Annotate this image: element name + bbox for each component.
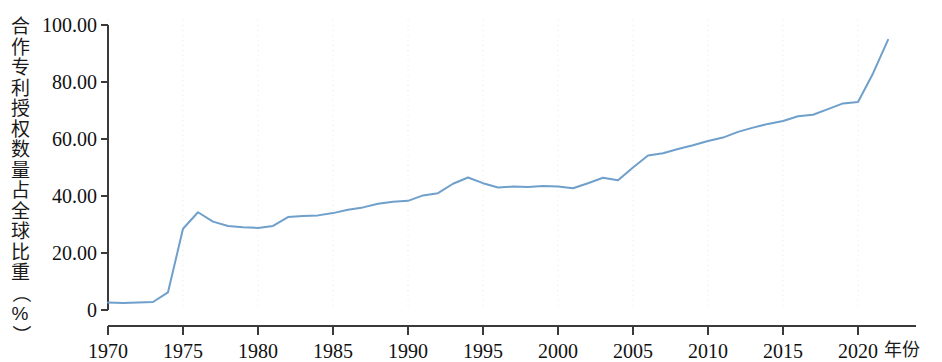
x-tick-group: 1970197519801985199019952000200520102015… bbox=[88, 326, 878, 362]
data-series-group bbox=[108, 40, 888, 303]
y-axis-label-char: （ bbox=[10, 284, 31, 303]
y-axis-label-char: 全 bbox=[11, 201, 30, 222]
y-axis-label-char: 作 bbox=[11, 37, 30, 58]
y-axis-label-char: 球 bbox=[11, 221, 30, 242]
x-tick-label: 2010 bbox=[688, 340, 728, 362]
y-tick-label: 20.00 bbox=[52, 242, 97, 264]
y-axis-label-char: 权 bbox=[11, 119, 30, 140]
y-tick-label: 60.00 bbox=[52, 128, 97, 150]
x-tick-label: 2015 bbox=[763, 340, 803, 362]
y-axis-label-char: 占 bbox=[11, 180, 30, 201]
chart-figure: 020.0040.0060.0080.00100.00 197019751980… bbox=[0, 0, 942, 362]
y-axis-label-char: ） bbox=[10, 325, 31, 344]
y-tick-label: 40.00 bbox=[52, 185, 97, 207]
y-axis-label: 合作专利授权数量占全球比重（%） bbox=[10, 16, 31, 344]
x-tick-label: 1975 bbox=[163, 340, 203, 362]
x-tick-label: 1985 bbox=[313, 340, 353, 362]
y-tick-label: 0 bbox=[87, 299, 97, 321]
y-axis-label-char: 重 bbox=[11, 262, 30, 283]
x-tick-label: 1995 bbox=[463, 340, 503, 362]
x-tick-label: 1980 bbox=[238, 340, 278, 362]
y-tick-label: 80.00 bbox=[52, 71, 97, 93]
y-axis-label-char: 利 bbox=[11, 78, 30, 99]
series-line bbox=[108, 40, 888, 303]
y-tick-group: 020.0040.0060.0080.00100.00 bbox=[42, 14, 108, 321]
x-tick-label: 1990 bbox=[388, 340, 428, 362]
x-tick-label: 1970 bbox=[88, 340, 128, 362]
y-axis-label-char: 授 bbox=[11, 98, 30, 119]
line-chart-plot: 020.0040.0060.0080.00100.00 197019751980… bbox=[0, 0, 942, 362]
gridlines-group bbox=[108, 20, 858, 310]
x-tick-label: 2020 bbox=[838, 340, 878, 362]
y-axis-label-char: 量 bbox=[11, 160, 30, 181]
y-axis-label-char: % bbox=[12, 303, 29, 324]
x-tick-label: 2005 bbox=[613, 340, 653, 362]
y-axis-label-char: 比 bbox=[11, 242, 30, 263]
y-axis-label-char: 专 bbox=[11, 57, 30, 78]
x-tick-label: 2000 bbox=[538, 340, 578, 362]
y-tick-label: 100.00 bbox=[42, 14, 97, 36]
y-axis-label-char: 数 bbox=[11, 139, 30, 160]
y-axis-label-char: 合 bbox=[11, 16, 30, 37]
x-axis-label: 年份 bbox=[884, 340, 920, 360]
